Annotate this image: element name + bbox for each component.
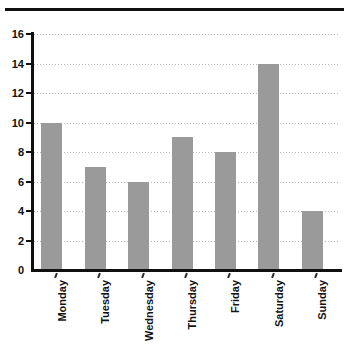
y-axis-tick-label: 8 (2, 147, 24, 158)
y-axis-tick-mark (26, 181, 32, 183)
y-axis-tick-label: 10 (2, 118, 24, 129)
y-axis-tick-labels: 0246810121416 (0, 0, 24, 345)
y-axis-tick-mark (26, 63, 32, 65)
y-axis-tick-mark (26, 151, 32, 153)
y-axis-tick-mark (26, 240, 32, 242)
bar (258, 64, 279, 271)
x-axis-tick-label: Tuesday (100, 280, 111, 324)
x-axis-tick-mark (271, 273, 275, 278)
x-axis-tick-label: Friday (230, 280, 241, 313)
y-axis-tick-label: 0 (2, 265, 24, 276)
y-axis-tick-mark (26, 33, 32, 35)
y-axis-tick-label: 14 (2, 59, 24, 70)
y-axis-tick-mark (26, 92, 32, 94)
x-axis-tick-mark (228, 273, 232, 278)
gridline (34, 93, 338, 94)
x-axis-tick-label: Thursday (187, 280, 198, 330)
y-axis-tick-label: 6 (2, 177, 24, 188)
x-axis-tick-label: Monday (57, 280, 68, 322)
plot-area (34, 34, 338, 270)
y-axis-tick-label: 4 (2, 206, 24, 217)
x-axis-tick-mark (184, 273, 188, 278)
x-axis-tick-label: Sunday (317, 280, 328, 320)
bar (128, 182, 149, 271)
x-axis-tick-mark (141, 273, 145, 278)
gridline (34, 34, 338, 35)
y-axis-tick-mark (26, 210, 32, 212)
x-axis-tick-label: Saturday (274, 280, 285, 327)
x-axis-line (31, 269, 342, 272)
y-axis-tick-label: 2 (2, 236, 24, 247)
bar (85, 167, 106, 270)
x-axis-tick-mark (54, 273, 58, 278)
bar (302, 211, 323, 270)
x-axis-tick-mark (314, 273, 318, 278)
x-axis-tick-label: Wednesday (144, 280, 155, 341)
y-axis-tick-mark (26, 122, 32, 124)
bar (172, 137, 193, 270)
y-axis-tick-label: 12 (2, 88, 24, 99)
bar (41, 123, 62, 271)
y-axis-tick-label: 16 (2, 29, 24, 40)
gridline (34, 64, 338, 65)
gridline (34, 123, 338, 124)
bar (215, 152, 236, 270)
x-axis-tick-mark (97, 273, 101, 278)
bar-chart: 0246810121416 MondayTuesdayWednesdayThur… (0, 0, 348, 345)
